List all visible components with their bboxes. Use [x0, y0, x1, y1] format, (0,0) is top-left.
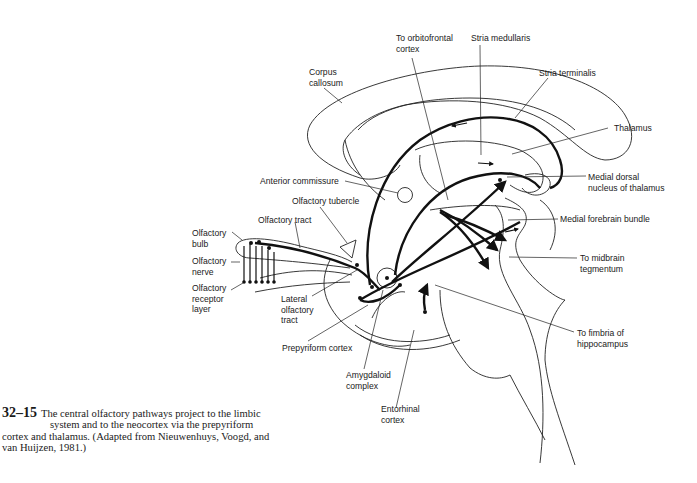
caption-line-1: The central olfactory pathways project t…: [41, 408, 261, 419]
brain-outlines: [236, 66, 632, 465]
label-thalamus: Thalamus: [614, 123, 652, 134]
label-amygdaloid-complex: Amygdaloid complex: [346, 370, 391, 391]
label-medial-forebrain-bundle: Medial forebrain bundle: [560, 214, 650, 225]
label-olfactory-nerve: Olfactory nerve: [192, 256, 226, 277]
label-olfactory-tract: Olfactory tract: [258, 215, 311, 226]
figure-number: 32–15: [2, 405, 37, 420]
label-prepyriform-cortex: Prepyriform cortex: [282, 343, 352, 354]
label-olfactory-tubercle: Olfactory tubercle: [292, 196, 359, 207]
leader-lines: [231, 45, 608, 408]
label-anterior-commissure: Anterior commissure: [260, 176, 339, 187]
caption-line-3: cortex and thalamus. (Adapted from Nieuw…: [2, 431, 347, 442]
figure-caption: 32–15The central olfactory pathways proj…: [2, 407, 347, 454]
label-to-orbitofrontal-cortex: To orbitofrontal cortex: [396, 33, 453, 54]
pathway-fibers: [255, 117, 562, 310]
label-to-midbrain-tegmentum: To midbrain tegmentum: [580, 253, 624, 274]
direction-arrows: [452, 123, 518, 232]
label-olfactory-receptor-layer: Olfactory receptor layer: [192, 283, 226, 315]
label-lateral-olfactory-tract: Lateral olfactory tract: [281, 294, 313, 326]
label-olfactory-bulb: Olfactory bulb: [192, 228, 226, 249]
caption-line-4: van Huijzen, 1981.): [2, 442, 347, 453]
label-corpus-callosum: Corpus callosum: [309, 67, 343, 88]
label-stria-medullaris: Stria medullaris: [471, 33, 530, 44]
label-stria-terminalis: Stria terminalis: [539, 68, 596, 79]
caption-line-2: system and to the neocortex via the prep…: [2, 419, 347, 430]
label-medial-dorsal-nucleus: Medial dorsal nucleus of thalamus: [588, 172, 664, 193]
label-to-fimbria-of-hippocampus: To fimbria of hippocampus: [577, 328, 628, 349]
label-entorhinal-cortex: Entorhinal cortex: [381, 404, 420, 425]
